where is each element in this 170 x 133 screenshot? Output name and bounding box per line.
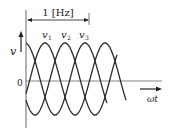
svg-text:2: 2	[67, 34, 71, 41]
frequency-label: 1 [Hz]	[42, 7, 73, 18]
three-phase-waveform-diagram: 1 [Hz] v 0 ωt v 1 v 2 v 3	[0, 0, 170, 133]
wave-label-v3: v 3	[79, 29, 89, 41]
svg-text:1: 1	[48, 34, 52, 41]
wave-v1	[26, 43, 126, 115]
origin-label: 0	[17, 78, 23, 88]
wave-label-v2: v 2	[61, 29, 71, 41]
y-axis-label: v	[10, 45, 17, 58]
up-arrow-icon	[19, 31, 24, 52]
svg-text:3: 3	[85, 34, 89, 41]
wave-v3	[26, 43, 107, 115]
right-arrow-icon	[140, 87, 162, 92]
x-axis-label: ωt	[147, 94, 158, 104]
wave-label-v1: v 1	[42, 29, 52, 41]
